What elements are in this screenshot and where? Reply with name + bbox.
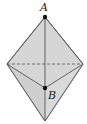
label-b: B bbox=[47, 89, 56, 102]
point-a bbox=[43, 15, 47, 19]
bipyramid-diagram: A B bbox=[0, 0, 87, 124]
label-a: A bbox=[39, 1, 48, 14]
point-b bbox=[43, 86, 47, 90]
